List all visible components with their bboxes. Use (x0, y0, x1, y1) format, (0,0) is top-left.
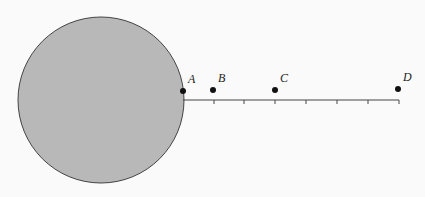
point-c-dot (272, 87, 278, 93)
point-d-label: D (402, 70, 412, 84)
diagram-canvas: ABCD (0, 0, 425, 197)
point-a-label: A (187, 72, 196, 86)
point-b-dot (210, 87, 216, 93)
point-b-label: B (218, 71, 226, 85)
point-c-label: C (280, 71, 289, 85)
tick-marks (214, 100, 399, 104)
points-group: ABCD (180, 70, 412, 94)
point-d-dot (395, 86, 401, 92)
point-a-dot (180, 88, 186, 94)
planet-circle (18, 17, 184, 183)
